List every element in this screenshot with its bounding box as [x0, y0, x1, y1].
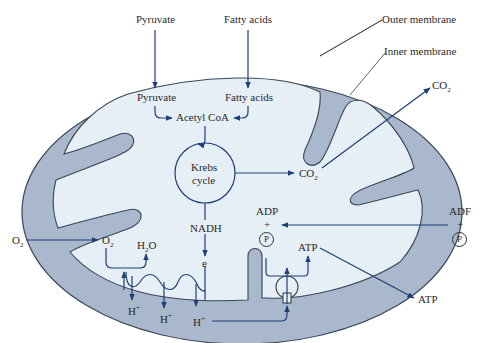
- label-nadh: NADH: [190, 223, 222, 234]
- label-co2-inside: CO2: [299, 168, 318, 182]
- label-h2o: H2O: [137, 240, 156, 254]
- label-plus-inside: +: [264, 219, 270, 230]
- label-h-plus-2: H+: [160, 313, 172, 325]
- phosphate-inside-icon: P: [259, 232, 274, 247]
- label-co2-outside: CO2: [432, 80, 451, 94]
- label-o2-outside: O2: [12, 235, 23, 249]
- label-o2-inside: O2: [102, 235, 113, 249]
- phosphate-outside-icon: P: [452, 232, 467, 247]
- label-krebs: Krebs: [191, 162, 217, 173]
- label-plus-outside: +: [457, 219, 463, 230]
- inner-membrane-leader: [350, 52, 386, 95]
- label-inner-membrane: Inner membrane: [384, 46, 456, 57]
- label-atp-inside: ATP: [298, 242, 318, 253]
- label-cycle: cycle: [192, 175, 215, 186]
- label-adp-outside: ADF: [449, 206, 471, 217]
- label-electron: e: [202, 258, 207, 269]
- label-outer-membrane: Outer membrane: [382, 14, 456, 25]
- mitochondrion-diagram: Pyruvate Fatty acids Outer membrane Inne…: [0, 0, 485, 343]
- label-acetyl-coa: Acetyl CoA: [176, 112, 229, 123]
- label-fatty-acids-outside: Fatty acids: [224, 14, 272, 25]
- label-adp-inside: ADP: [256, 206, 278, 217]
- label-h-plus-1: H+: [128, 305, 140, 317]
- label-pyruvate-inside: Pyruvate: [137, 92, 176, 103]
- label-h-plus-3: H+: [193, 316, 205, 328]
- label-pyruvate-outside: Pyruvate: [136, 14, 175, 25]
- label-fatty-acids-inside: Fatty acids: [225, 92, 273, 103]
- label-atp-outside: ATP: [418, 294, 438, 305]
